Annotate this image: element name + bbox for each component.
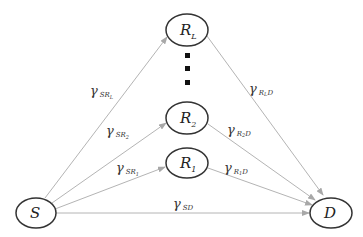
edge-s-r1 <box>55 167 165 209</box>
node-relay-l: RL <box>166 14 208 46</box>
label-gamma-sr2: γSR2 <box>106 123 129 140</box>
relay-l-label: R <box>179 21 191 39</box>
label-gamma-rld: γRLD <box>249 81 273 97</box>
node-source: S <box>16 198 56 228</box>
relay-2-label: R <box>179 109 191 127</box>
label-gamma-srl: γSRL <box>90 83 114 100</box>
relay-network-diagram: RL R2 R1 S D γSRL γSR2 γSR1 γSD γRLD γR2… <box>0 0 363 237</box>
node-destination: D <box>310 198 352 228</box>
edge-s-rl <box>45 37 167 198</box>
relay-2-sub: 2 <box>190 120 196 129</box>
label-gamma-sd: γSD <box>173 196 194 212</box>
node-relay-1: R1 <box>166 148 208 178</box>
destination-label: D <box>323 204 336 222</box>
source-label: S <box>30 204 40 222</box>
relay-l-sub: L <box>190 32 196 41</box>
ellipsis-dots <box>185 53 190 85</box>
label-gamma-r1d: γR1D <box>224 160 248 176</box>
relay-1-sub: 1 <box>191 165 196 174</box>
label-gamma-sr1: γSR1 <box>116 160 139 177</box>
label-gamma-r2d: γR2D <box>227 122 251 138</box>
relay-1-label: R <box>179 154 191 172</box>
diagram-svg: RL R2 R1 S D γSRL γSR2 γSR1 γSD γRLD γR2… <box>0 0 363 237</box>
node-relay-2: R2 <box>166 102 208 134</box>
